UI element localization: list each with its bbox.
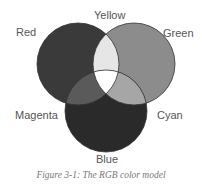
label-blue: Blue bbox=[96, 154, 118, 165]
label-magenta: Magenta bbox=[15, 110, 58, 121]
label-cyan: Cyan bbox=[157, 110, 183, 121]
label-yellow: Yellow bbox=[94, 10, 125, 21]
label-red: Red bbox=[16, 27, 36, 38]
figure-caption: Figure 3-1: The RGB color model bbox=[0, 170, 202, 180]
rgb-venn-figure: Red Yellow Green Magenta Cyan Blue Figur… bbox=[0, 0, 202, 186]
label-green: Green bbox=[163, 28, 194, 39]
